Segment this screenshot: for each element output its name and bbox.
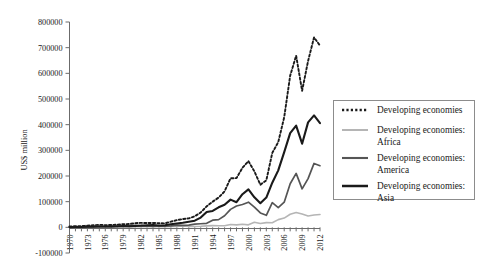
x-tick-label: 2003: [263, 234, 272, 250]
legend-label-1: Developing economies:: [377, 125, 465, 135]
x-tick-label: 1994: [209, 234, 218, 250]
y-tick-label: 700000: [38, 44, 63, 53]
y-tick-label: 500000: [38, 95, 63, 104]
legend-label-2-line2: America: [377, 165, 409, 175]
series-line-0: [70, 37, 321, 226]
x-tick-label: 1973: [84, 234, 93, 250]
y-tick-label: 100000: [38, 198, 63, 207]
series-line-2: [70, 163, 321, 227]
y-tick-label: 400000: [38, 121, 63, 130]
y-tick-label: 0: [58, 223, 62, 232]
series-lines: [70, 37, 321, 227]
x-axis-ticks: 1970197319761979198219851988199119941997…: [66, 227, 326, 250]
x-tick-label: 1970: [66, 234, 75, 250]
x-tick-label: 2006: [280, 234, 289, 250]
legend-label-3-line2: Asia: [377, 193, 394, 203]
y-tick-label: 800000: [38, 18, 63, 27]
line-chart: 8000007000006000005000004000003000002000…: [0, 0, 487, 278]
x-tick-label: 1988: [173, 234, 182, 250]
legend-label-2: Developing economies:: [377, 153, 465, 163]
x-tick-label: 1979: [119, 234, 128, 250]
x-tick-label: 1976: [101, 234, 110, 250]
y-tick-label: -100000: [35, 249, 62, 258]
x-tick-label: 2009: [298, 234, 307, 250]
x-tick-label: 1985: [155, 234, 164, 250]
legend-label-0: Developing economies: [377, 105, 463, 115]
series-line-3: [70, 115, 321, 227]
x-tick-label: 1982: [137, 234, 146, 250]
x-tick-label: 2012: [316, 234, 325, 250]
y-tick-label: 200000: [38, 172, 63, 181]
x-tick-label: 1997: [227, 234, 236, 250]
y-tick-label: 600000: [38, 69, 63, 78]
legend-label-1-line2: Africa: [377, 137, 401, 147]
x-tick-label: 1991: [191, 234, 200, 250]
chart-legend: Developing economiesDeveloping economies…: [334, 101, 475, 203]
x-tick-label: 2000: [245, 234, 254, 250]
legend-label-3: Developing economies:: [377, 181, 465, 191]
y-axis-ticks: 8000007000006000005000004000003000002000…: [35, 18, 69, 258]
y-tick-label: 300000: [38, 146, 63, 155]
chart-figure: 8000007000006000005000004000003000002000…: [0, 0, 487, 278]
y-axis-title: US$ million: [20, 129, 29, 171]
